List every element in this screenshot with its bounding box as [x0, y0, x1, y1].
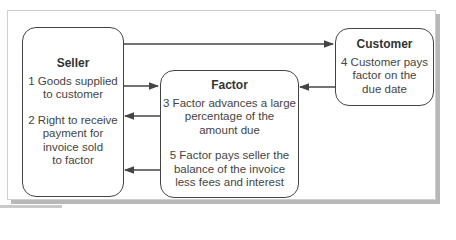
seller-node: Seller 1 Goods supplied to customer 2 Ri…	[22, 27, 124, 197]
seller-step-2: 2 Right to receive payment for invoice s…	[23, 114, 123, 168]
factor-step-5: 5 Factor pays seller the balance of the …	[161, 149, 298, 190]
customer-title: Customer	[336, 38, 433, 52]
customer-node: Customer 4 Customer pays factor on the d…	[335, 28, 434, 106]
decorative-bar	[0, 205, 62, 208]
customer-step-4: 4 Customer pays factor on the due date	[336, 56, 433, 97]
factor-step-3: 3 Factor advances a large percentage of …	[161, 97, 298, 138]
factor-node: Factor 3 Factor advances a large percent…	[160, 70, 299, 198]
seller-title: Seller	[23, 57, 123, 71]
factor-title: Factor	[161, 79, 298, 93]
seller-step-1: 1 Goods supplied to customer	[23, 75, 123, 102]
